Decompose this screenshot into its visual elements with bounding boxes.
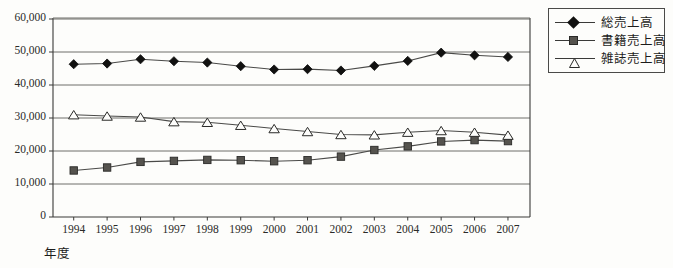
gridlines [53, 19, 530, 184]
y-axis-tick-label: 0 [0, 209, 46, 221]
sales-line-chart: 60,00050,00040,00030,00020,00010,0000 19… [0, 0, 673, 268]
chart-legend: 総売上高 書籍売上高 雑誌売上高 [548, 8, 665, 73]
data-series [69, 48, 514, 174]
open-triangle-shape [569, 54, 580, 72]
y-axis-tick-label: 10,000 [0, 176, 46, 188]
y-axis-tick-label: 60,000 [0, 11, 46, 23]
y-axis-tick-label: 40,000 [0, 77, 46, 89]
legend-label-total: 総売上高 [595, 16, 653, 30]
y-axis-ticks [49, 19, 53, 217]
filled-square-icon [555, 34, 595, 48]
y-axis-tick-label: 50,000 [0, 44, 46, 56]
y-axis-tick-label: 30,000 [0, 110, 46, 122]
legend-item-books: 書籍売上高 [555, 32, 660, 50]
legend-label-books: 書籍売上高 [595, 34, 666, 48]
legend-item-magazines: 雑誌売上高 [555, 50, 660, 68]
legend-item-total: 総売上高 [555, 14, 660, 32]
legend-label-magazines: 雑誌売上高 [595, 52, 666, 66]
filled-diamond-icon [555, 16, 595, 30]
x-axis-tick-label: 2007 [488, 223, 528, 235]
x-axis-title: 年度 [44, 243, 70, 262]
open-triangle-icon [555, 52, 595, 66]
y-axis-tick-label: 20,000 [0, 143, 46, 155]
